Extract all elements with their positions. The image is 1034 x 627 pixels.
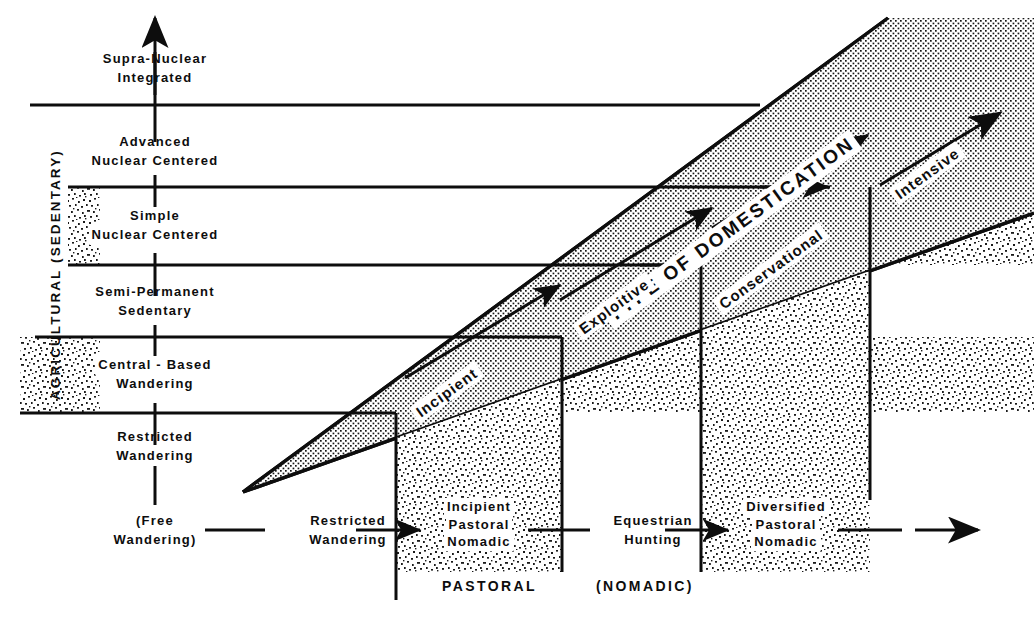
bottom-caption-pastoral: PASTORAL [442, 578, 537, 594]
level-simple-nuclear-centered: Simple Nuclear Centered [42, 207, 268, 245]
hlevel-incipient-pastoral-nomadic: Incipient Pastoral Nomadic [396, 498, 562, 551]
level-free-wandering: (Free Wandering) [42, 512, 268, 550]
level-advanced-nuclear-centered: Advanced Nuclear Centered [42, 133, 268, 171]
figure-canvas: AGRICULTURAL (SEDENTARY) Supra-Nuclear I… [0, 0, 1034, 627]
hlevel-diversified-pastoral-nomadic: Diversified Pastoral Nomadic [700, 498, 872, 551]
bottom-caption-nomadic: (NOMADIC) [596, 578, 694, 594]
level-central-based-wandering: Central - Based Wandering [42, 356, 268, 394]
level-semi-permanent-sedentary: Semi-Permanent Sedentary [42, 283, 268, 321]
level-supra-nuclear-integrated: Supra-Nuclear Integrated [55, 50, 255, 88]
level-restricted-wandering: Restricted Wandering [42, 428, 268, 466]
